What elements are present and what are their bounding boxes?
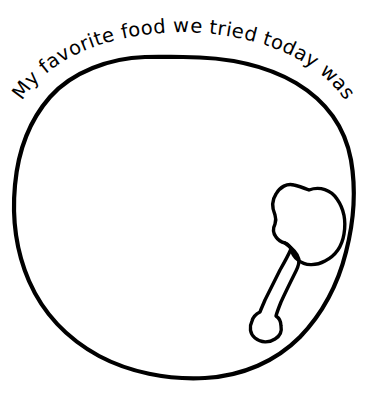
- worksheet-page: My favorite food we tried today was: [0, 0, 365, 400]
- drawing-area[interactable]: [55, 110, 285, 330]
